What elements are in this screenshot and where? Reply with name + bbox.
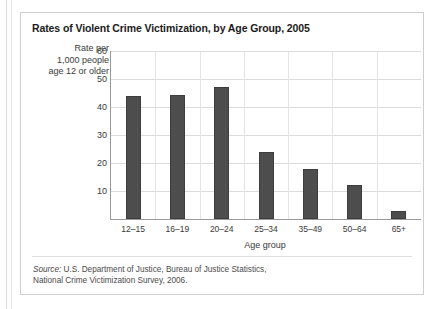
source-line-1: U.S. Department of Justice, Bureau of Ju… <box>61 265 266 274</box>
bar-35-49 <box>303 169 318 219</box>
y-gridline <box>111 51 421 52</box>
bar-65- <box>391 211 406 219</box>
y-axis-tick-label: 60 <box>97 46 107 56</box>
y-gridline <box>111 135 421 136</box>
x-gridline <box>288 51 289 219</box>
figure-card: Rates of Violent Crime Victimization, by… <box>20 12 424 295</box>
source-divider <box>32 256 412 257</box>
x-axis-tick-label: 16–19 <box>166 224 190 234</box>
source-label: Source: <box>33 265 61 274</box>
x-axis-tick-label: 65+ <box>392 224 406 234</box>
x-gridline <box>244 51 245 219</box>
x-axis-tick-label: 20–24 <box>210 224 234 234</box>
y-gridline <box>111 107 421 108</box>
bar-25-34 <box>259 152 274 219</box>
y-axis-tick-label: 50 <box>97 74 107 84</box>
x-gridline <box>332 51 333 219</box>
source-line-2: National Crime Victimization Survey, 200… <box>33 276 187 285</box>
x-axis-tick-label: 35–49 <box>298 224 322 234</box>
bar-16-19 <box>170 95 185 219</box>
plot-wrapper: Rate per 1,000 people age 12 or older 10… <box>21 13 425 296</box>
x-axis-tick-label: 25–34 <box>254 224 278 234</box>
x-axis-tick-label: 12–15 <box>121 224 145 234</box>
y-axis-tick-label: 20 <box>97 158 107 168</box>
y-axis-title: Rate per 1,000 people age 12 or older <box>21 43 109 78</box>
page-gutter-rule-inner <box>11 0 12 309</box>
x-gridline <box>200 51 201 219</box>
y-gridline <box>111 79 421 80</box>
x-gridline <box>377 51 378 219</box>
y-axis-tick-label: 40 <box>97 102 107 112</box>
x-gridline <box>155 51 156 219</box>
y-axis-tick-label: 10 <box>97 186 107 196</box>
bar-12-15 <box>126 96 141 219</box>
plot-area: 10203040506012–1516–1920–2425–3435–4950–… <box>110 51 421 220</box>
x-axis-tick-label: 50–64 <box>343 224 367 234</box>
figure-container: Rates of Violent Crime Victimization, by… <box>0 0 444 309</box>
x-axis-title: Age group <box>110 240 420 250</box>
bar-20-24 <box>214 87 229 219</box>
y-axis-tick-label: 30 <box>97 130 107 140</box>
bar-50-64 <box>347 185 362 219</box>
source-note: Source: U.S. Department of Justice, Bure… <box>33 265 413 286</box>
page-gutter-rule-left <box>6 0 7 309</box>
